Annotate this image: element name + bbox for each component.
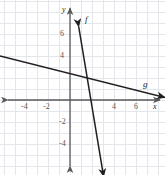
x-tick-label-minus2: -2 <box>43 103 50 111</box>
plot-canvas <box>0 0 165 175</box>
x-tick-label-minus4: -4 <box>21 103 28 111</box>
coordinate-plane-figure: -4 -2 4 6 6 4 -2 -4 x y f g <box>0 0 165 175</box>
line-f-label: f <box>85 15 88 24</box>
y-tick-label-minus4: -4 <box>59 140 66 148</box>
x-axis-label: x <box>153 103 157 111</box>
y-tick-label-minus2: -2 <box>59 118 66 126</box>
y-tick-label-6: 6 <box>60 30 64 38</box>
y-axis-label: y <box>62 6 66 14</box>
x-tick-label-4: 4 <box>112 103 116 111</box>
plot-background <box>0 0 165 175</box>
line-g-label: g <box>143 80 148 89</box>
x-tick-label-6: 6 <box>134 103 138 111</box>
y-tick-label-4: 4 <box>60 52 64 60</box>
